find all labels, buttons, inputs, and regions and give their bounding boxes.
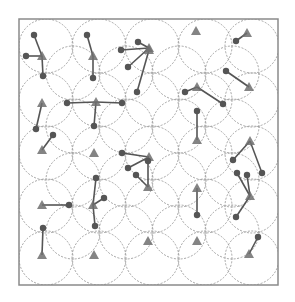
base-station-triangle-icon xyxy=(242,28,252,37)
node-dot-icon xyxy=(84,32,90,38)
diagram-svg xyxy=(0,0,295,302)
node-dot-icon xyxy=(223,68,229,74)
base-station-triangle-icon xyxy=(37,98,47,107)
link-line xyxy=(250,141,262,173)
node-dot-icon xyxy=(133,172,139,178)
base-station-triangle-icon xyxy=(245,191,255,200)
link-line xyxy=(67,102,96,103)
node-dot-icon xyxy=(119,100,125,106)
node-dot-icon xyxy=(118,47,124,53)
node-dot-icon xyxy=(119,150,125,156)
node-dot-icon xyxy=(101,195,107,201)
base-station-triangle-icon xyxy=(244,249,254,258)
node-dot-icon xyxy=(64,100,70,106)
base-station-triangle-icon xyxy=(37,250,47,259)
base-station-triangle-icon xyxy=(89,148,99,157)
link-line xyxy=(122,153,149,157)
coverage-circle xyxy=(19,19,73,73)
node-dot-icon xyxy=(145,158,151,164)
node-dot-icon xyxy=(233,214,239,220)
node-dot-icon xyxy=(92,223,98,229)
node-dot-icon xyxy=(91,123,97,129)
node-dot-icon xyxy=(233,38,239,44)
link-line xyxy=(34,35,42,56)
node-dot-icon xyxy=(93,175,99,181)
network-diagram: Coverage / clustering diagram xyxy=(0,0,295,302)
coverage-circle xyxy=(19,73,73,127)
node-dot-icon xyxy=(23,53,29,59)
node-dot-icon xyxy=(50,132,56,138)
node-dot-icon xyxy=(33,126,39,132)
node-dot-icon xyxy=(40,73,46,79)
coverage-circle xyxy=(225,179,279,233)
node-dot-icon xyxy=(244,172,250,178)
node-dot-icon xyxy=(220,101,226,107)
coverage-circle xyxy=(178,19,232,73)
node-dot-icon xyxy=(125,64,131,70)
node-dot-icon xyxy=(125,165,131,171)
node-dot-icon xyxy=(234,170,240,176)
base-station-triangle-icon xyxy=(192,236,202,245)
base-station-triangle-icon xyxy=(89,250,99,259)
node-dot-icon xyxy=(90,75,96,81)
base-station-triangle-icon xyxy=(244,82,254,91)
coverage-circle xyxy=(125,19,179,73)
coverage-circle xyxy=(225,73,279,127)
base-station-triangle-icon xyxy=(191,26,201,35)
base-station-triangle-icon xyxy=(192,183,202,192)
node-dot-icon xyxy=(255,234,261,240)
links xyxy=(26,33,262,255)
node-dot-icon xyxy=(31,32,37,38)
base-station-triangle-icon xyxy=(192,82,202,91)
node-dot-icon xyxy=(182,89,188,95)
link-line xyxy=(96,102,122,103)
node-dot-icon xyxy=(134,89,140,95)
node-dot-icon xyxy=(259,170,265,176)
node-dot-icon xyxy=(135,39,141,45)
node-dot-icon xyxy=(230,157,236,163)
base-station-triangle-icon xyxy=(192,135,202,144)
base-station-triangle-icon xyxy=(245,136,255,145)
coverage-circle xyxy=(72,19,126,73)
node-dot-icon xyxy=(40,225,46,231)
node-dot-icon xyxy=(194,108,200,114)
base-station-triangle-icon xyxy=(88,51,98,60)
node-dot-icon xyxy=(194,212,200,218)
node-dot-icon xyxy=(66,202,72,208)
